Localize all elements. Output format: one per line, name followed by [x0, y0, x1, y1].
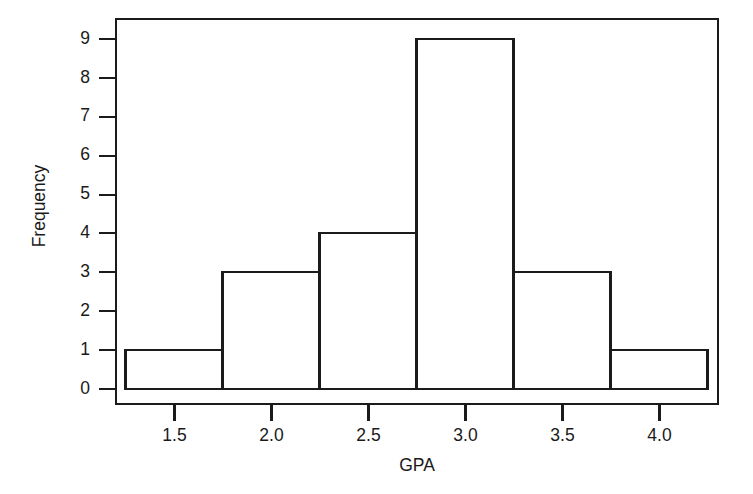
histogram-bars	[126, 39, 708, 389]
y-tick-label-0: 0	[80, 378, 90, 398]
histogram-bar	[126, 350, 223, 389]
x-axis-tick-labels: 1.5 2.0 2.5 3.0 3.5 4.0	[162, 425, 672, 445]
y-tick-label-5: 5	[80, 183, 90, 203]
x-tick-label-2-0: 2.0	[259, 425, 284, 445]
y-tick-label-9: 9	[80, 28, 90, 48]
x-tick-label-3-5: 3.5	[550, 425, 574, 445]
y-axis-tick-labels: 0 1 2 3 4 5 6 7 8 9	[80, 28, 90, 398]
x-tick-label-1-5: 1.5	[162, 425, 186, 445]
histogram-bar	[514, 272, 611, 389]
y-tick-label-2: 2	[80, 300, 90, 320]
y-tick-label-8: 8	[80, 67, 90, 87]
histogram-bar	[320, 233, 417, 389]
histogram-bar	[417, 39, 514, 389]
y-axis-title: Frequency	[29, 164, 49, 247]
y-tick-label-3: 3	[80, 261, 90, 281]
y-tick-label-1: 1	[80, 339, 90, 359]
y-tick-label-4: 4	[80, 222, 90, 242]
histogram-bar	[611, 350, 708, 389]
histogram-figure: 0 1 2 3 4 5 6 7 8 9 1.5 2.0 2.5 3.0 3.5	[0, 0, 753, 494]
x-tick-label-3-0: 3.0	[453, 425, 478, 445]
x-axis-ticks	[175, 404, 660, 421]
y-tick-label-6: 6	[80, 144, 90, 164]
x-tick-label-2-5: 2.5	[356, 425, 380, 445]
x-axis-title: GPA	[399, 455, 435, 475]
x-tick-label-4-0: 4.0	[647, 425, 672, 445]
y-tick-label-7: 7	[80, 105, 90, 125]
y-axis-ticks	[99, 39, 116, 389]
histogram-bar	[223, 272, 320, 389]
histogram-plot: 0 1 2 3 4 5 6 7 8 9 1.5 2.0 2.5 3.0 3.5	[0, 0, 753, 494]
